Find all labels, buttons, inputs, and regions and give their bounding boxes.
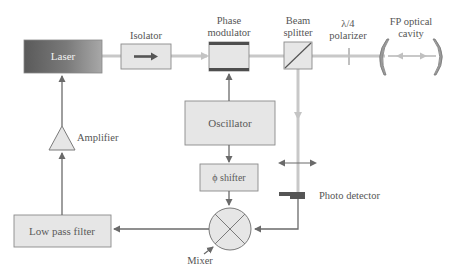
laser-label: Laser: [51, 50, 76, 62]
modulator-bottom-electrode: [209, 68, 249, 71]
mixer-node[interactable]: [209, 208, 251, 250]
mixer-label: Mixer: [187, 255, 213, 266]
phase-modulator-label-2: modulator: [207, 27, 251, 38]
detector-to-mixer-line: [255, 199, 298, 229]
beam-splitter-node[interactable]: Beam splitter: [283, 15, 313, 69]
amplifier-triangle-icon: [49, 126, 75, 150]
fp-cavity-label-2: cavity: [398, 28, 424, 39]
polarizer-label-2: polarizer: [329, 30, 367, 41]
modulator-top-electrode: [209, 42, 249, 45]
oscillator-node[interactable]: Oscillator: [185, 101, 275, 145]
low-pass-filter-node[interactable]: Low pass filter: [14, 215, 111, 247]
amplifier-label: Amplifier: [77, 132, 119, 143]
isolator-node[interactable]: Isolator: [121, 30, 171, 69]
beam-splitter-label-2: splitter: [283, 27, 313, 38]
laser-node[interactable]: Laser: [24, 40, 102, 73]
photo-detector-label: Photo detector: [319, 190, 380, 201]
low-pass-filter-label: Low pass filter: [29, 225, 95, 237]
phi-shifter-label: ϕ shifter: [212, 172, 246, 183]
phase-modulator-label-1: Phase: [217, 15, 242, 26]
phase-modulator-node[interactable]: Phase modulator: [207, 15, 251, 71]
diagram-canvas: Laser Isolator Phase modulator Beam spli…: [0, 0, 455, 275]
polarizer-label-1: λ/4: [341, 18, 355, 29]
isolator-label: Isolator: [130, 30, 163, 41]
amplifier-node[interactable]: Amplifier: [49, 126, 119, 150]
phi-shifter-node[interactable]: ϕ shifter: [200, 164, 258, 191]
fp-cavity-node[interactable]: FP optical cavity: [380, 16, 443, 75]
photo-detector-node[interactable]: Photo detector: [279, 190, 380, 201]
polarizer-node[interactable]: λ/4 polarizer: [329, 18, 367, 65]
fp-cavity-label-1: FP optical: [390, 16, 433, 27]
beam-splitter-label-1: Beam: [286, 15, 311, 26]
oscillator-label: Oscillator: [208, 117, 252, 129]
mixer-label-pointer: [204, 247, 213, 254]
